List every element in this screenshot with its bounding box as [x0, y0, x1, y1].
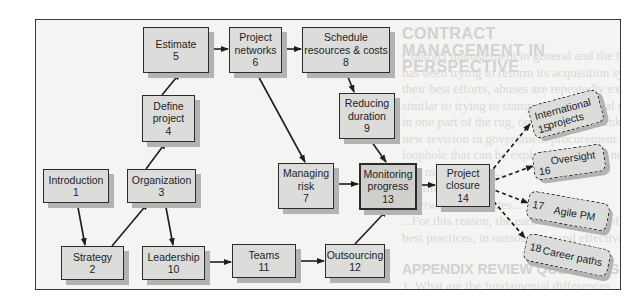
- node-strategy: Strategy 2: [61, 246, 124, 280]
- node-number: 7: [303, 192, 309, 205]
- node-monitoring-progress: Monitoring progress 13: [359, 163, 417, 210]
- node-number: 4: [166, 125, 172, 138]
- node-number: 12: [349, 261, 361, 274]
- node-label: Oversight: [550, 148, 596, 166]
- node-project-closure: Project closure 14: [436, 164, 490, 207]
- node-label: Outsourcing: [327, 249, 384, 262]
- node-teams: Teams 11: [232, 244, 296, 278]
- node-label: Define project: [153, 100, 185, 125]
- node-label: Introduction: [49, 174, 104, 187]
- bleed-heading: CONTRACT MANAGEMENT IN PERSPECTIVE: [402, 26, 620, 76]
- node-outsourcing: Outsourcing 12: [325, 244, 385, 278]
- node-label: Teams: [249, 249, 280, 262]
- node-reducing-duration: Reducing duration 9: [339, 93, 395, 139]
- node-number: 8: [343, 56, 349, 69]
- node-number: 13: [382, 193, 394, 206]
- node-label: Agile PM: [553, 204, 596, 223]
- node-define-project: Define project 4: [142, 95, 195, 142]
- node-number: 17: [532, 198, 546, 212]
- node-organization: Organization 3: [127, 169, 196, 203]
- node-label: Managing risk: [283, 167, 329, 192]
- node-project-networks: Project networks 6: [229, 27, 282, 73]
- node-label: Project closure: [446, 167, 480, 192]
- node-number: 18: [529, 240, 543, 254]
- node-number: 9: [364, 122, 370, 135]
- node-label: Career paths: [542, 244, 604, 268]
- node-label: Reducing duration: [345, 97, 389, 122]
- node-number: 16: [538, 164, 551, 178]
- node-introduction: Introduction 1: [43, 169, 109, 203]
- node-number: 10: [168, 263, 180, 276]
- node-label: Monitoring progress: [363, 168, 412, 193]
- node-number: 11: [259, 261, 270, 274]
- node-number: 6: [253, 56, 259, 69]
- node-label: Organization: [132, 174, 192, 187]
- node-label: Project networks: [234, 31, 276, 56]
- node-number: 1: [73, 186, 79, 199]
- node-number: 5: [173, 50, 179, 63]
- bleed-question: 1. What are the fundamental differences …: [402, 278, 620, 290]
- node-number: 2: [90, 263, 96, 276]
- node-label: Strategy: [73, 251, 112, 264]
- node-label: Estimate: [156, 38, 197, 51]
- node-label: Leadership: [148, 251, 200, 264]
- node-estimate: Estimate 5: [143, 27, 209, 73]
- node-leadership: Leadership 10: [142, 246, 205, 280]
- node-number: 3: [159, 186, 165, 199]
- node-schedule-resources-costs: Schedule resources & costs 8: [302, 27, 390, 73]
- node-label: Schedule resources & costs: [304, 31, 387, 56]
- node-managing-risk: Managing risk 7: [278, 163, 334, 209]
- node-number: 14: [457, 192, 469, 205]
